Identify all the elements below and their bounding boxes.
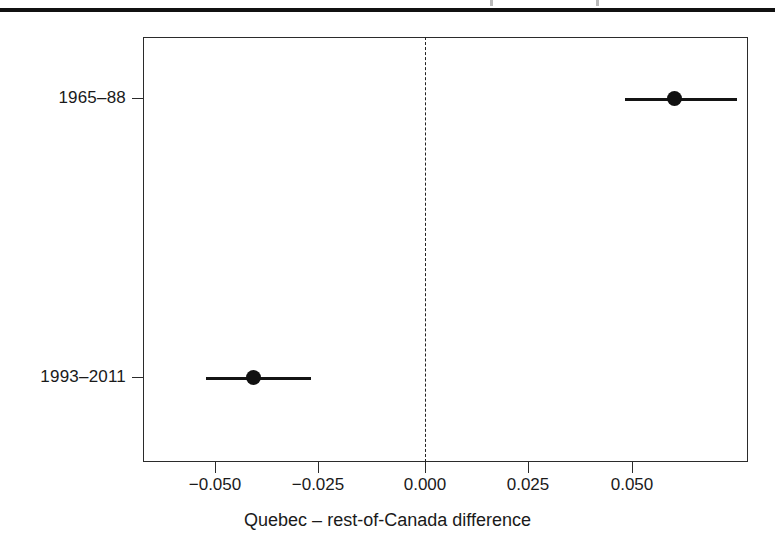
x-axis-ticklabel: 0.000 (365, 475, 485, 495)
x-axis-ticklabel: −0.050 (155, 475, 275, 495)
x-axis-tick (318, 462, 319, 473)
y-axis-label-period-2: 1993–2011 (0, 367, 126, 387)
x-axis-ticklabel: 0.025 (468, 475, 588, 495)
x-axis-tick (215, 462, 216, 473)
x-axis-title: Quebec – rest-of-Canada difference (0, 510, 775, 531)
cropped-text-speck (596, 0, 599, 6)
y-axis-tick (132, 98, 143, 99)
y-axis-label-period-1: 1965–88 (0, 88, 126, 108)
point-marker (667, 91, 682, 106)
x-axis-tick (528, 462, 529, 473)
cropped-text-speck (490, 0, 493, 6)
x-axis-tick (425, 462, 426, 473)
forest-plot-figure: 1965–88 1993–2011 −0.050 −0.025 0.000 0.… (0, 12, 775, 553)
y-axis-tick (132, 377, 143, 378)
x-axis-tick (632, 462, 633, 473)
zero-reference-line (425, 37, 426, 462)
x-axis-ticklabel: 0.050 (572, 475, 692, 495)
point-marker (246, 370, 261, 385)
x-axis-ticklabel: −0.025 (258, 475, 378, 495)
